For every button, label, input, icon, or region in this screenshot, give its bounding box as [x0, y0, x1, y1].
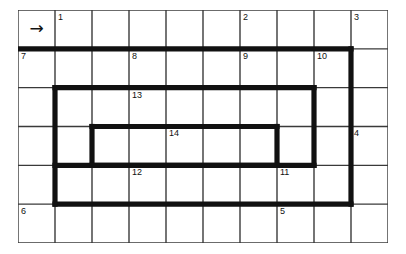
cell-number: 6: [21, 206, 26, 216]
cell-number: 10: [317, 51, 327, 61]
cell-number: 2: [243, 12, 248, 22]
cell-number: 8: [132, 51, 137, 61]
cell-number: 13: [132, 90, 142, 100]
cell-number: 12: [132, 167, 142, 177]
cell-number: 11: [280, 167, 289, 177]
start-arrow-cell: →: [18, 10, 55, 49]
arrow-right-icon: →: [29, 20, 43, 37]
cell-number: 7: [21, 51, 26, 61]
cell-number: 5: [280, 206, 285, 216]
cell-number: 1: [58, 12, 63, 22]
grid-lines-svg: [18, 10, 388, 243]
puzzle-canvas: → 1237891013414121165: [0, 0, 406, 254]
cell-number: 14: [169, 128, 179, 138]
cell-number: 4: [354, 128, 359, 138]
cell-number: 9: [243, 51, 248, 61]
cell-number: 3: [354, 12, 359, 22]
puzzle-grid[interactable]: → 1237891013414121165: [18, 10, 388, 243]
